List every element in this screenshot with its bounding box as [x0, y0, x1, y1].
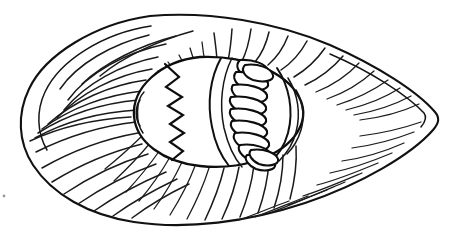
figure-root: Fossil shell line drawing Black ink line…	[0, 0, 450, 237]
shell-line-drawing: Fossil shell line drawing Black ink line…	[0, 0, 450, 237]
central-body-group	[134, 57, 303, 171]
page-speck	[3, 195, 6, 198]
